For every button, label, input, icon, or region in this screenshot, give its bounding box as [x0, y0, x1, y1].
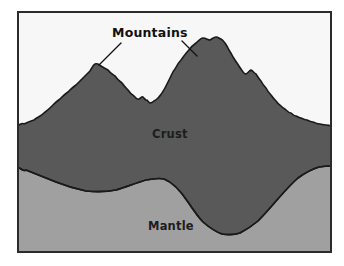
label-crust: Crust — [152, 129, 188, 141]
label-mountains: Mountains — [112, 27, 188, 40]
label-mantle: Mantle — [148, 221, 194, 233]
figure-root: Mountains Crust Mantle — [0, 0, 344, 266]
